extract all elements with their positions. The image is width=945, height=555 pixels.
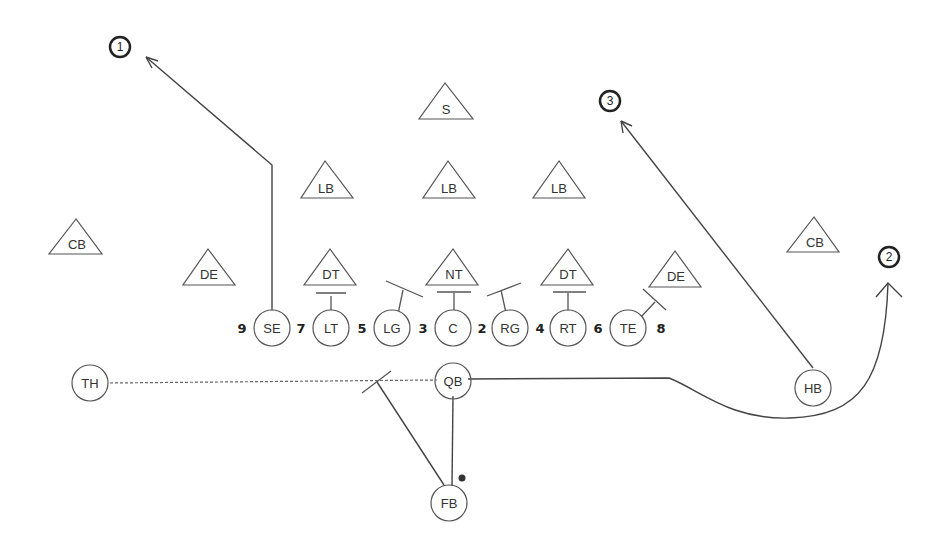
- svg-text:LB: LB: [441, 181, 457, 196]
- player-rt[interactable]: RT: [550, 310, 586, 346]
- svg-text:LT: LT: [324, 321, 338, 336]
- th-motion-line: [110, 380, 437, 383]
- svg-text:HB: HB: [804, 381, 822, 396]
- svg-text:LB: LB: [318, 181, 334, 196]
- svg-text:LG: LG: [383, 321, 400, 336]
- defender-s[interactable]: S: [419, 83, 473, 119]
- gap-8: 8: [656, 321, 665, 336]
- defender-lb-right[interactable]: LB: [533, 161, 585, 198]
- svg-text:2: 2: [886, 250, 893, 264]
- lg-block: [386, 281, 423, 314]
- qb-to-fb-line: [452, 396, 453, 486]
- gap-3: 3: [418, 321, 427, 336]
- fb-ball-dot: [459, 475, 466, 482]
- gap-6: 6: [593, 321, 602, 336]
- svg-text:NT: NT: [445, 267, 462, 282]
- defender-lb-left[interactable]: LB: [301, 161, 353, 198]
- player-lg[interactable]: LG: [374, 310, 410, 346]
- svg-text:DT: DT: [322, 267, 339, 282]
- routes: [110, 57, 902, 486]
- svg-text:RT: RT: [559, 321, 576, 336]
- hb-route: [621, 121, 813, 368]
- play-diagram: S LB LB LB CB DE DT NT: [0, 0, 945, 555]
- svg-text:1: 1: [117, 40, 124, 54]
- svg-text:SE: SE: [263, 321, 281, 336]
- defender-nt[interactable]: NT: [426, 249, 478, 285]
- player-rg[interactable]: RG: [492, 310, 528, 346]
- defense: S LB LB LB CB DE DT NT: [49, 83, 839, 287]
- player-qb[interactable]: QB: [435, 363, 471, 399]
- defender-lb-mid[interactable]: LB: [423, 161, 475, 198]
- svg-text:TH: TH: [81, 376, 98, 391]
- svg-text:CB: CB: [68, 237, 86, 252]
- svg-text:QB: QB: [444, 374, 463, 389]
- player-se[interactable]: SE: [254, 310, 290, 346]
- defender-cb-right[interactable]: CB: [787, 217, 839, 252]
- defender-de-left[interactable]: DE: [183, 249, 235, 285]
- te-block: [641, 289, 666, 317]
- svg-text:3: 3: [607, 94, 614, 108]
- svg-text:TE: TE: [620, 321, 637, 336]
- offense: SE LT LG C RG RT TE TH: [72, 310, 831, 521]
- read-target-1[interactable]: 1: [110, 37, 130, 57]
- svg-text:CB: CB: [806, 235, 824, 250]
- defender-dt-right[interactable]: DT: [541, 249, 593, 285]
- read-target-2[interactable]: 2: [879, 247, 899, 267]
- player-fb[interactable]: FB: [431, 485, 467, 521]
- fb-block-bar: [362, 371, 391, 393]
- svg-text:S: S: [442, 102, 451, 117]
- gap-9: 9: [237, 321, 246, 336]
- svg-text:FB: FB: [441, 496, 458, 511]
- defender-de-right[interactable]: DE: [649, 251, 701, 287]
- player-te[interactable]: TE: [610, 310, 646, 346]
- svg-text:DE: DE: [667, 269, 685, 284]
- defender-dt-left[interactable]: DT: [304, 249, 356, 285]
- gap-2: 2: [477, 321, 486, 336]
- gap-4: 4: [535, 321, 544, 336]
- rg-block: [487, 283, 521, 313]
- blocks: [316, 281, 666, 317]
- te-delay-arrowhead: [876, 283, 902, 297]
- read-targets: 1 3 2: [110, 37, 899, 267]
- defender-cb-left[interactable]: CB: [49, 219, 102, 254]
- player-th[interactable]: TH: [72, 365, 108, 401]
- gap-7: 7: [296, 321, 305, 336]
- player-c[interactable]: C: [435, 310, 471, 346]
- svg-text:DE: DE: [200, 267, 218, 282]
- player-lt[interactable]: LT: [313, 310, 349, 346]
- fb-block-line: [377, 382, 444, 485]
- svg-text:C: C: [448, 321, 457, 336]
- svg-text:DT: DT: [559, 267, 576, 282]
- gap-5: 5: [357, 321, 366, 336]
- read-target-3[interactable]: 3: [600, 91, 620, 111]
- svg-text:RG: RG: [500, 321, 520, 336]
- svg-text:LB: LB: [551, 181, 567, 196]
- player-hb[interactable]: HB: [795, 370, 831, 406]
